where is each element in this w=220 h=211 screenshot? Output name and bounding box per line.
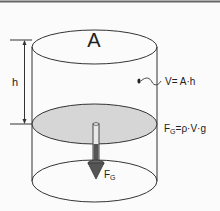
- weight-arrow-head-icon: [88, 163, 104, 179]
- area-label: A: [87, 29, 101, 51]
- height-arrow-up-icon: [23, 40, 27, 45]
- height-label: h: [12, 76, 18, 88]
- volume-dot-icon: [137, 78, 140, 83]
- weight-arrow-shaft-shaded: [94, 144, 99, 162]
- diagram-canvas: A h V= A·h FG=ρ·V·g FG: [0, 0, 220, 211]
- height-arrow-down-icon: [23, 119, 27, 124]
- volume-squiggle-icon: [141, 78, 161, 85]
- cylinder-diagram: A h V= A·h FG=ρ·V·g FG: [0, 0, 220, 211]
- weight-arrow-label: FG: [104, 169, 116, 181]
- weight-formula: FG=ρ·V·g: [164, 123, 206, 135]
- weight-arrow-subscript: G: [110, 174, 115, 181]
- weight-formula-rest: =ρ·V·g: [176, 123, 206, 134]
- weight-arrow-top-cap: [93, 123, 99, 126]
- volume-formula: V= A·h: [165, 76, 195, 87]
